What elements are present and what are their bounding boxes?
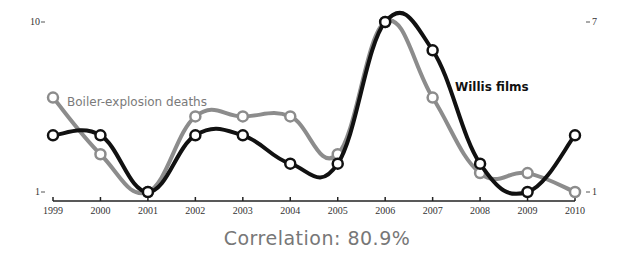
data-point-marker xyxy=(428,45,438,55)
x-tick-label: 2006 xyxy=(375,205,395,216)
data-point-marker xyxy=(523,187,533,197)
data-point-marker xyxy=(333,159,343,169)
right-axis-top-label: 7 xyxy=(592,16,597,27)
data-point-marker xyxy=(570,187,580,197)
data-point-marker xyxy=(570,130,580,140)
data-point-marker xyxy=(380,17,390,27)
data-point-marker xyxy=(95,149,105,159)
correlation-caption: Correlation: 80.9% xyxy=(0,227,634,249)
right-axis-bottom-label: 1 xyxy=(592,186,597,197)
x-tick-label: 2004 xyxy=(280,205,300,216)
data-point-marker xyxy=(48,93,58,103)
data-point-marker xyxy=(48,130,58,140)
data-point-marker xyxy=(285,111,295,121)
x-tick-label: 2010 xyxy=(565,205,585,216)
x-tick-label: 2007 xyxy=(423,205,443,216)
x-axis: 1999200020012002200320042005200620072008… xyxy=(43,197,585,216)
x-tick-label: 2003 xyxy=(233,205,253,216)
data-point-marker xyxy=(190,111,200,121)
correlation-chart: 1999200020012002200320042005200620072008… xyxy=(0,0,634,225)
boiler-explosion-deaths-label: Boiler-explosion deaths xyxy=(67,95,207,109)
data-point-marker xyxy=(238,111,248,121)
left-y-axis: 10 1 xyxy=(30,16,45,197)
data-point-marker xyxy=(475,159,485,169)
data-point-marker xyxy=(428,93,438,103)
data-point-marker xyxy=(95,130,105,140)
x-tick-label: 2005 xyxy=(328,205,348,216)
x-tick-label: 1999 xyxy=(43,205,63,216)
data-point-marker xyxy=(285,159,295,169)
data-point-marker xyxy=(523,168,533,178)
data-point-marker xyxy=(190,130,200,140)
willis-films-label: Willis films xyxy=(455,80,529,94)
left-axis-bottom-label: 1 xyxy=(35,186,40,197)
x-tick-label: 2000 xyxy=(90,205,110,216)
left-axis-top-label: 10 xyxy=(30,16,40,27)
right-y-axis: 7 1 xyxy=(586,16,597,197)
x-tick-label: 2009 xyxy=(518,205,538,216)
x-tick-label: 2001 xyxy=(138,205,158,216)
data-point-marker xyxy=(238,130,248,140)
data-point-marker xyxy=(143,187,153,197)
x-tick-label: 2002 xyxy=(185,205,205,216)
x-tick-label: 2008 xyxy=(470,205,490,216)
